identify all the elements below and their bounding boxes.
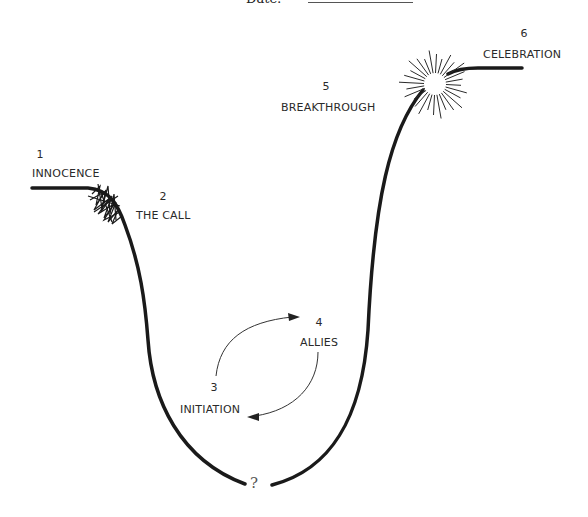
arrow-allies-to-initiation: [255, 352, 318, 416]
arrow-initiation-to-allies: [216, 317, 292, 376]
stage-5-number: 5: [316, 80, 336, 93]
stage-6-number: 6: [514, 27, 534, 40]
question-mark-icon: ?: [250, 474, 258, 492]
stage-1-number: 1: [30, 148, 50, 161]
stage-4-label: ALLIES: [300, 336, 338, 349]
journey-diagram: [0, 0, 588, 517]
stage-3-number: 3: [204, 381, 224, 394]
journey-path-descent: [32, 188, 245, 484]
journey-path-plateau: [448, 68, 522, 74]
stage-6-label: CELEBRATION: [483, 48, 561, 61]
stage-4-number: 4: [309, 316, 329, 329]
arrowhead-initiation: [247, 413, 259, 421]
stage-2-label: THE CALL: [136, 209, 191, 222]
stage-1-label: INNOCENCE: [32, 167, 100, 180]
journey-path-ascent: [272, 90, 423, 485]
stage-2-number: 2: [153, 190, 173, 203]
stage-3-label: INITIATION: [180, 403, 240, 416]
arrowhead-allies: [288, 313, 300, 321]
stage-5-label: BREAKTHROUGH: [281, 101, 376, 114]
